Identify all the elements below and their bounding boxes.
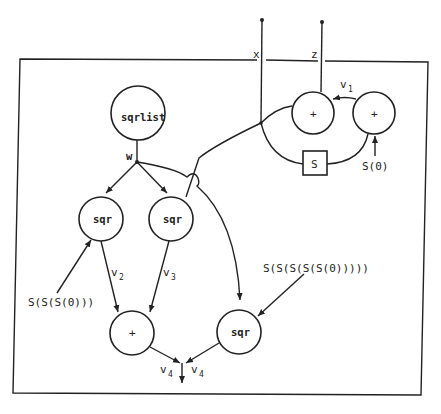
dataflow-diagram: x z + + v 1 S(0) S sqrlist w sqr sqr S(S…: [0, 0, 441, 414]
svg-text:v: v: [340, 78, 347, 91]
label-w: w: [126, 150, 133, 162]
label-z: z: [311, 48, 318, 61]
label-x: x: [253, 48, 260, 61]
svg-text:v: v: [163, 266, 170, 279]
svg-text:v: v: [191, 363, 198, 376]
label-s0: S(0): [362, 160, 389, 173]
label-s3: S(S(S(0))): [28, 296, 94, 309]
input-x-dot: [260, 18, 264, 22]
svg-text:v: v: [160, 363, 167, 376]
svg-text:+: +: [310, 108, 317, 121]
svg-text:+: +: [129, 327, 136, 340]
svg-text:v: v: [111, 266, 118, 279]
input-z-dot: [320, 20, 324, 24]
input-x-line: [261, 20, 262, 123]
svg-text:+: +: [371, 108, 378, 121]
edge-v1: [333, 98, 356, 100]
svg-text:2: 2: [119, 273, 124, 282]
svg-text:S: S: [311, 158, 318, 171]
svg-text:4: 4: [168, 370, 173, 379]
svg-text:sqr: sqr: [231, 326, 250, 338]
svg-text:3: 3: [171, 273, 176, 282]
label-s5: S(S(S(S(S(0))))): [263, 262, 369, 275]
svg-text:sqr: sqr: [163, 213, 182, 225]
svg-text:sqrlist: sqrlist: [121, 111, 165, 123]
svg-text:sqr: sqr: [93, 213, 112, 225]
input-z-line: [321, 22, 322, 92]
svg-text:4: 4: [199, 370, 204, 379]
svg-text:1: 1: [348, 85, 353, 94]
